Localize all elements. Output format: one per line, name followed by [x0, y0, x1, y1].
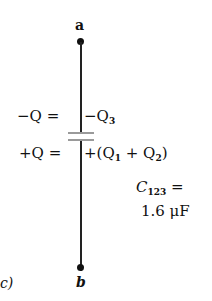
bottom-wire — [80, 141, 82, 271]
top-plate-left-charge: −Q = — [17, 109, 59, 124]
top-plate-right-charge: −Q3 — [84, 109, 115, 126]
bottom-plate-left-charge: +Q = — [19, 146, 61, 161]
panel-label: c) — [0, 276, 13, 290]
circuit-diagram: a −Q = −Q3 +Q = +(Q1 + Q2) C123 = 1.6 μF… — [0, 0, 212, 301]
terminal-b-label: b — [76, 275, 86, 289]
terminal-b-node — [77, 264, 84, 271]
equivalent-capacitance-label: C123 = — [136, 180, 184, 197]
equivalent-capacitance-value: 1.6 μF — [141, 204, 190, 219]
capacitor-top-plate — [68, 132, 94, 134]
terminal-a-label: a — [75, 18, 84, 32]
top-wire — [80, 42, 82, 132]
bottom-plate-right-charge: +(Q1 + Q2) — [84, 146, 168, 163]
